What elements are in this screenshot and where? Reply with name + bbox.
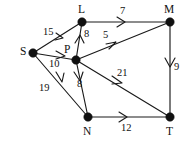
node-dot-s[interactable] [29,49,37,57]
node-label-p: P [64,44,70,56]
edge-weight-n-t: 12 [121,123,132,134]
node-dot-m[interactable] [166,18,174,26]
node-label-s: S [20,46,26,58]
edge-weight-s-l: 15 [43,27,54,38]
edge-weight-p-t: 21 [117,68,128,79]
edge-line-s-l [33,22,82,53]
node-label-l: L [78,4,85,16]
graph-diagram: S L P M N T 15 10 19 8 5 8 21 7 9 12 [0,0,192,146]
edge-weight-m-t: 9 [174,62,179,73]
edge-p-l [75,22,84,60]
edge-weight-l-m: 7 [120,6,125,17]
edge-weight-s-p: 10 [49,59,60,70]
edge-l-m [82,17,170,27]
edge-weight-p-m: 5 [103,30,108,41]
node-dot-p[interactable] [72,56,80,64]
graph-canvas [0,0,192,146]
edge-p-m [76,22,170,60]
node-dot-l[interactable] [78,18,86,26]
edge-weight-p-n: 8 [77,79,82,90]
node-label-n: N [83,126,91,138]
edge-line-p-m [76,22,170,60]
edge-n-t [88,112,170,122]
edge-weight-p-l: 8 [84,29,89,40]
node-dot-n[interactable] [84,113,92,121]
node-label-m: M [164,4,174,16]
node-dot-t[interactable] [166,113,174,121]
edge-weight-s-n: 19 [39,83,50,94]
node-label-t: T [166,126,173,138]
edge-s-l [33,22,82,53]
